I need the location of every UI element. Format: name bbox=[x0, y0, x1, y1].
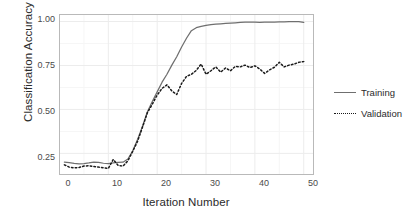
legend-label: Validation bbox=[361, 108, 402, 119]
chart-legend: Training Validation bbox=[334, 82, 416, 124]
x-tick-label: 0 bbox=[48, 178, 88, 188]
x-axis-title: Iteration Number bbox=[59, 196, 313, 208]
legend-item-training[interactable]: Training bbox=[334, 82, 416, 103]
x-tick-label: 30 bbox=[195, 178, 235, 188]
legend-label: Training bbox=[361, 87, 395, 98]
x-tick-label: 50 bbox=[293, 178, 333, 188]
x-tick-label: 10 bbox=[97, 178, 137, 188]
legend-line-dotted-icon bbox=[334, 109, 356, 119]
legend-line-solid-icon bbox=[334, 88, 356, 98]
legend-item-validation[interactable]: Validation bbox=[334, 103, 416, 124]
x-tick-label: 20 bbox=[146, 178, 186, 188]
chart-figure: Classification Accuracy 1.00 0.75 0.50 0… bbox=[0, 0, 416, 218]
x-tick-label: 40 bbox=[244, 178, 284, 188]
